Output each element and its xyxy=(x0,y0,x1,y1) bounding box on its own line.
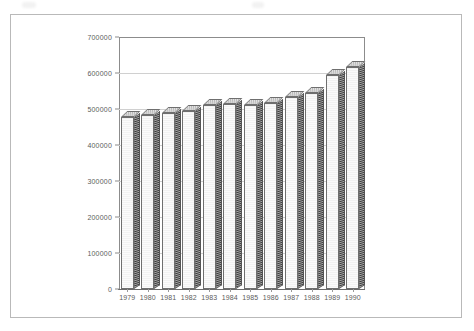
x-tick-mark xyxy=(168,289,169,292)
x-tick-label-1980: 1980 xyxy=(138,294,158,301)
x-tick-label-1982: 1982 xyxy=(179,294,199,301)
x-tick-label-1981: 1981 xyxy=(158,294,178,301)
y-tick-label: 500000 xyxy=(87,106,112,113)
x-tick-mark xyxy=(353,289,354,292)
x-tick-label-1983: 1983 xyxy=(199,294,219,301)
x-tick-label-1988: 1988 xyxy=(302,294,322,301)
bar-front-face xyxy=(223,104,236,289)
bar-1979 xyxy=(121,117,134,289)
bar-1990 xyxy=(346,67,359,289)
bar-side-face xyxy=(359,63,365,289)
bar-1987 xyxy=(285,97,298,289)
bar-series xyxy=(119,37,365,289)
x-tick-label-1990: 1990 xyxy=(343,294,363,301)
bar-front-face xyxy=(264,103,277,289)
x-tick-label-1987: 1987 xyxy=(281,294,301,301)
bar-front-face xyxy=(203,105,216,289)
x-tick-mark xyxy=(148,289,149,292)
bar-front-face xyxy=(162,113,175,289)
bar-front-face xyxy=(182,111,195,289)
bar-side-face xyxy=(277,99,283,289)
bar-front-face xyxy=(121,117,134,289)
bar-1982 xyxy=(182,111,195,289)
bar-side-face xyxy=(236,100,242,289)
scan-artifact xyxy=(22,2,36,8)
bar-front-face xyxy=(326,75,339,289)
bar-front-face xyxy=(305,93,318,289)
bar-1986 xyxy=(264,103,277,289)
bar-front-face xyxy=(141,115,154,289)
figure-frame: 0100000200000300000400000500000600000700… xyxy=(10,14,462,318)
bar-side-face xyxy=(134,113,140,289)
bar-1988 xyxy=(305,93,318,289)
bar-1983 xyxy=(203,105,216,289)
bar-side-face xyxy=(216,101,222,289)
x-tick-label-1989: 1989 xyxy=(322,294,342,301)
x-tick-label-1984: 1984 xyxy=(220,294,240,301)
bar-1985 xyxy=(244,105,257,289)
bar-side-face xyxy=(154,111,160,289)
bar-front-face xyxy=(244,105,257,289)
x-tick-mark xyxy=(332,289,333,292)
plot-area: 0100000200000300000400000500000600000700… xyxy=(119,37,365,289)
bar-side-face xyxy=(195,107,201,289)
x-tick-label-1979: 1979 xyxy=(117,294,137,301)
x-tick-mark xyxy=(312,289,313,292)
scan-artifact xyxy=(252,2,264,8)
y-tick-label: 600000 xyxy=(87,70,112,77)
x-tick-label-1985: 1985 xyxy=(240,294,260,301)
y-tick-label: 100000 xyxy=(87,250,112,257)
bar-1980 xyxy=(141,115,154,289)
bar-front-face xyxy=(346,67,359,289)
bar-front-face xyxy=(285,97,298,289)
x-tick-mark xyxy=(291,289,292,292)
axis-baseline xyxy=(118,289,365,290)
bar-1981 xyxy=(162,113,175,289)
x-tick-mark xyxy=(209,289,210,292)
bar-side-face xyxy=(318,89,324,289)
y-tick-label: 700000 xyxy=(87,34,112,41)
bar-side-face xyxy=(257,101,263,289)
x-tick-mark xyxy=(189,289,190,292)
y-tick-label: 400000 xyxy=(87,142,112,149)
x-tick-mark xyxy=(250,289,251,292)
x-tick-label-1986: 1986 xyxy=(261,294,281,301)
bar-chart: 0100000200000300000400000500000600000700… xyxy=(11,15,463,319)
x-tick-mark xyxy=(127,289,128,292)
bar-side-face xyxy=(298,93,304,289)
bar-1984 xyxy=(223,104,236,289)
bar-1989 xyxy=(326,75,339,289)
y-tick-label: 200000 xyxy=(87,214,112,221)
y-tick-label: 0 xyxy=(108,286,112,293)
bar-side-face xyxy=(175,109,181,289)
y-tick-label: 300000 xyxy=(87,178,112,185)
bar-side-face xyxy=(339,71,345,289)
x-tick-mark xyxy=(230,289,231,292)
x-tick-mark xyxy=(271,289,272,292)
